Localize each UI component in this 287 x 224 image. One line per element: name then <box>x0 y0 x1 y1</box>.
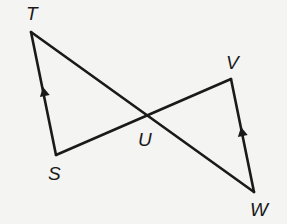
vertex-label-w: W <box>250 199 270 220</box>
vertex-label-s: S <box>48 163 61 184</box>
vertex-label-u: U <box>138 129 152 150</box>
vertex-label-v: V <box>226 52 241 73</box>
geometry-diagram: T S U V W <box>0 0 287 224</box>
segment-tw <box>31 32 254 192</box>
parallel-arrow-icon <box>238 127 248 137</box>
vertex-label-t: T <box>26 3 39 24</box>
